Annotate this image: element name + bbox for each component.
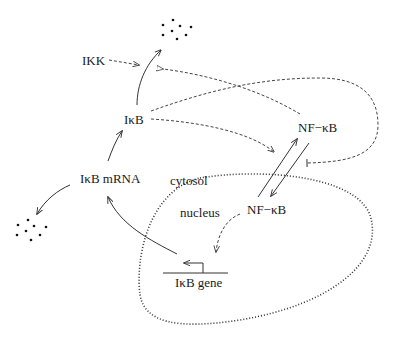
edge-nfkb-to-ikb-degradation xyxy=(163,69,300,114)
label-nfkb-nucleus: NF−κB xyxy=(247,202,287,217)
edge-gene-to-mrna xyxy=(108,197,177,254)
edge-ikk-to-degradation xyxy=(109,60,139,65)
edge-ikb-inhibit-loop xyxy=(151,78,378,163)
degradation-dots-left-icon xyxy=(16,219,48,242)
edge-ikb-to-nfkb xyxy=(151,119,274,152)
label-ikk: IKK xyxy=(82,53,106,68)
nucleus-boundary xyxy=(139,174,372,324)
label-ikb-gene: IκB gene xyxy=(175,275,223,290)
degradation-dots-top-icon xyxy=(162,19,193,41)
label-ikb: IκB xyxy=(124,112,144,127)
label-cytosol: cytosol xyxy=(170,173,208,188)
edge-mrna-to-ikb xyxy=(108,131,122,161)
ikb-nfkb-pathway-diagram: IKK IκB IκB mRNA NF−κB NF−κB cytosol nuc… xyxy=(0,0,394,338)
edge-mrna-to-degradation xyxy=(37,185,70,214)
edge-ikb-to-degradation xyxy=(137,50,161,105)
label-ikb-mrna: IκB mRNA xyxy=(80,171,141,186)
ikb-gene-icon xyxy=(163,263,228,273)
label-nfkb-cytosol: NF−κB xyxy=(298,120,338,135)
label-nucleus: nucleus xyxy=(180,205,220,220)
